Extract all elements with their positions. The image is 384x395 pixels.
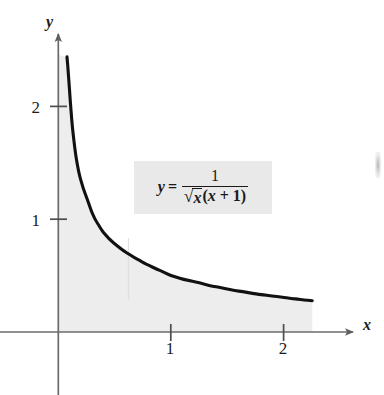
equation-numerator: 1 [207,168,223,186]
y-tick-label-1: 1 [24,212,40,229]
equation-fraction: 1 √ x (x + 1) [182,168,248,208]
equation-callout: y = 1 √ x (x + 1) [134,161,272,214]
equation-lhs: y [158,178,165,196]
plus-sign: + [216,187,233,204]
scan-edge-artifact [375,152,381,178]
square-root-icon: √ x [184,188,202,207]
callout-leader-triangle [140,213,186,258]
paren-close: ) [241,187,246,204]
x-axis-label: x [363,317,371,333]
denominator-factor: (x + 1) [202,188,246,205]
figure-graph-of-function: y x 1 2 1 2 y = 1 √ x (x + 1) [0,0,384,395]
equation-equals-sign: = [168,178,177,196]
y-tick-label-2: 2 [24,99,40,116]
equation-expression: y = 1 √ x (x + 1) [158,168,248,208]
denominator-constant: 1 [233,187,241,204]
radicand: x [192,188,202,207]
x-tick-label-1: 1 [162,340,178,357]
equation-denominator: √ x (x + 1) [182,187,248,207]
denominator-variable: x [208,187,216,204]
x-tick-label-2: 2 [275,340,291,357]
y-axis-label: y [46,14,53,30]
